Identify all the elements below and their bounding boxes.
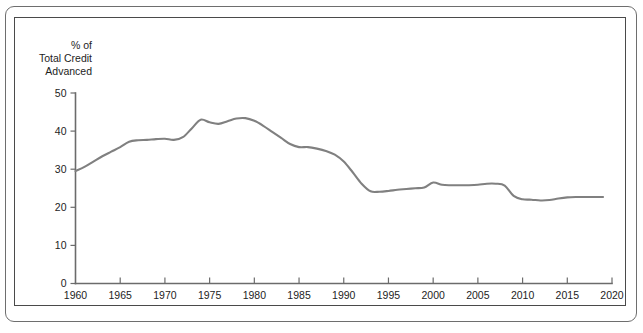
data-series-group bbox=[76, 118, 604, 200]
x-tick-label: 1960 bbox=[64, 289, 88, 301]
y-tick-label: 40 bbox=[55, 125, 67, 137]
y-axis-title-line-2: Total Credit bbox=[39, 52, 92, 64]
x-tick-label: 2015 bbox=[556, 289, 580, 301]
x-tick-label: 1975 bbox=[198, 289, 222, 301]
y-axis-title-line-1: % of bbox=[71, 39, 92, 51]
axis-title-group: % of Total Credit Advanced bbox=[39, 39, 92, 77]
x-tick-label: 1965 bbox=[109, 289, 133, 301]
x-tick-label: 1995 bbox=[377, 289, 401, 301]
x-tick-label: 2010 bbox=[511, 289, 535, 301]
x-tick-label: 2020 bbox=[600, 289, 624, 301]
x-tick-label: 1985 bbox=[287, 289, 311, 301]
figure-root: % of Total Credit Advanced 01020304050 1… bbox=[0, 0, 643, 333]
y-tick-label: 50 bbox=[55, 87, 67, 99]
y-tick-label: 10 bbox=[55, 239, 67, 251]
line-chart: % of Total Credit Advanced 01020304050 1… bbox=[0, 0, 643, 333]
x-tick-label: 2000 bbox=[421, 289, 445, 301]
y-tick-label: 20 bbox=[55, 201, 67, 213]
y-axis-title-line-3: Advanced bbox=[45, 65, 92, 77]
x-tick-label: 2005 bbox=[466, 289, 490, 301]
y-tick-label: 0 bbox=[61, 277, 67, 289]
x-tick-group: 1960196519701975198019851990199520002005… bbox=[64, 278, 624, 301]
x-axis: 1960196519701975198019851990199520002005… bbox=[64, 278, 624, 301]
x-tick-label: 1970 bbox=[153, 289, 177, 301]
x-tick-label: 1990 bbox=[332, 289, 356, 301]
x-tick-label: 1980 bbox=[243, 289, 267, 301]
y-tick-label: 30 bbox=[55, 163, 67, 175]
y-axis: 01020304050 bbox=[55, 87, 76, 290]
y-tick-group: 01020304050 bbox=[55, 87, 76, 290]
data-line-series-0 bbox=[76, 118, 604, 200]
